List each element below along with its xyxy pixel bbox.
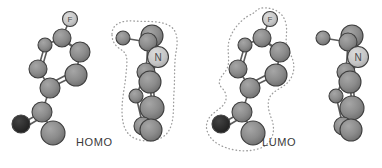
atom-carbon: [232, 102, 252, 122]
atom-oxygen: [12, 115, 30, 133]
atom-carbon: [229, 60, 247, 78]
atom-carbon: [340, 96, 364, 120]
atom-carbon: [129, 89, 143, 103]
molecule-canvas: F: [0, 0, 382, 168]
molecular-orbital-figure: F: [0, 0, 382, 168]
atom-carbon: [40, 78, 60, 98]
atom-carbon: [329, 89, 343, 103]
atom-carbon: [41, 121, 65, 145]
atom-group-homo-front: [12, 12, 90, 146]
atom-carbon: [29, 60, 47, 78]
atom-carbon: [339, 71, 361, 93]
atom-carbon: [238, 38, 252, 52]
atom-group-lumo-side: [316, 25, 369, 141]
atom-carbon: [116, 31, 130, 45]
atom-carbon: [139, 71, 161, 93]
atom-carbon: [270, 42, 290, 62]
atom-carbon: [340, 119, 362, 141]
panel-homo-front: F: [12, 12, 90, 146]
atom-carbon: [53, 29, 71, 47]
atom-label-nitrogen: N: [354, 52, 361, 63]
atom-group-lumo-front: [212, 12, 290, 146]
atom-label-fluorine: F: [268, 15, 273, 24]
atom-carbon: [140, 96, 164, 120]
panel-lumo-front: F: [206, 8, 293, 151]
atom-carbon: [140, 119, 162, 141]
atom-carbon: [316, 31, 330, 45]
atom-carbon: [240, 78, 260, 98]
atom-carbon: [32, 102, 52, 122]
atom-label-fluorine: F: [68, 15, 73, 24]
atom-oxygen: [212, 115, 230, 133]
atom-carbon: [253, 29, 271, 47]
atom-carbon: [70, 42, 90, 62]
atom-carbon: [65, 64, 87, 86]
homo-label: HOMO: [76, 136, 113, 148]
atom-carbon: [265, 64, 287, 86]
atom-carbon: [38, 38, 52, 52]
atom-label-nitrogen: N: [154, 52, 161, 63]
lumo-label: LUMO: [262, 136, 296, 148]
panel-homo-side: N: [112, 21, 177, 141]
panel-lumo-side: N: [316, 25, 369, 141]
